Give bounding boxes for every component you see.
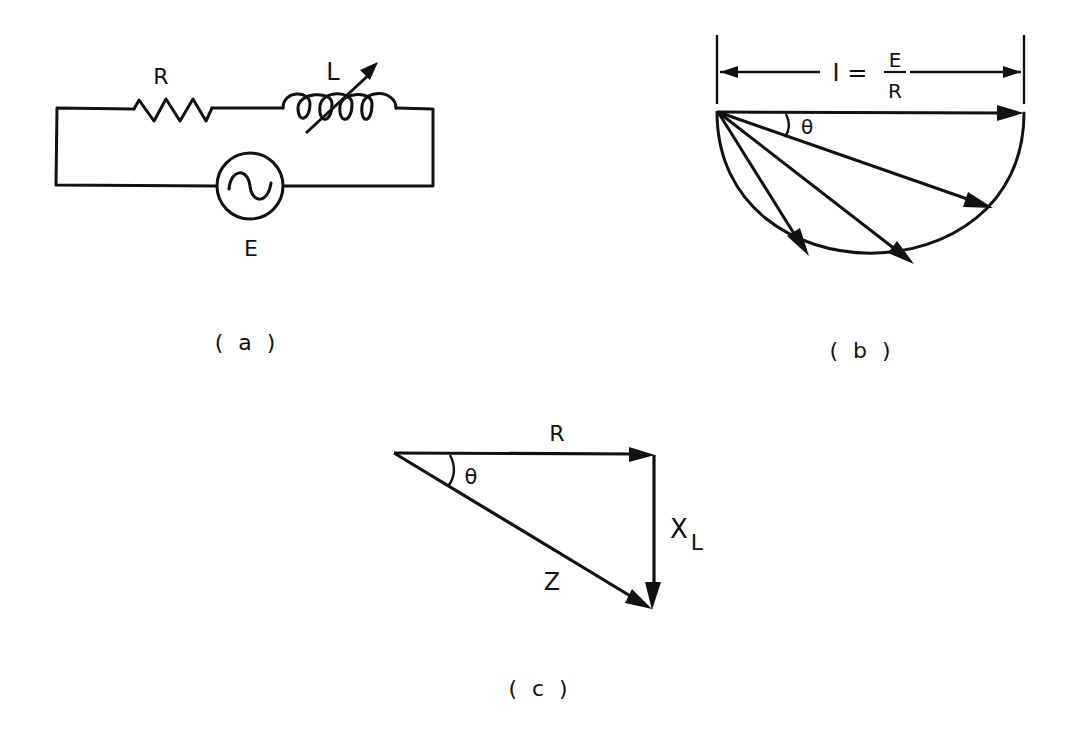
arrowhead-icon [1003, 66, 1021, 78]
reactance-subscript: L [691, 530, 704, 555]
caption-b: ( b ) [829, 338, 894, 363]
impedance-vector [394, 453, 632, 597]
angle-arc [785, 114, 789, 137]
phasor-arrow [718, 112, 1006, 113]
sine-wave-icon [229, 173, 271, 199]
figure-a-circuit: R L E ( a ) [56, 58, 433, 355]
angle-label: θ [801, 115, 813, 139]
arrowhead-icon [629, 447, 655, 462]
circuit-wire [56, 108, 216, 186]
circuit-wire [284, 108, 433, 186]
source-label: E [244, 236, 258, 261]
arrowhead-icon [888, 241, 914, 264]
impedance-label: Z [544, 568, 560, 596]
resistor-label: R [153, 64, 168, 89]
resistor-icon [134, 99, 212, 121]
caption-a: ( a ) [215, 330, 280, 355]
resistance-label: R [549, 421, 564, 446]
reactance-label: X [670, 514, 688, 544]
phasor-arrow [718, 112, 976, 202]
dimension-label: I = [833, 59, 868, 87]
figure-c-impedance-triangle: R θ X L Z ( c ) [394, 421, 704, 701]
resistance-vector [394, 453, 636, 454]
diagram-canvas: R L E ( a ) I = E R θ ( b ) [0, 0, 1078, 738]
fraction-denominator: R [888, 79, 902, 103]
angle-arc [448, 455, 454, 486]
arrowhead-icon [963, 192, 993, 208]
caption-c: ( c ) [508, 676, 571, 701]
figure-b-phasor-locus: I = E R θ ( b ) [717, 35, 1024, 363]
arrowhead-icon [720, 66, 738, 78]
angle-label: θ [465, 465, 478, 489]
arrowhead-icon [997, 105, 1024, 121]
arrowhead-icon [360, 62, 378, 80]
inductor-icon [283, 93, 396, 119]
fraction-numerator: E [889, 48, 902, 72]
inductor-label: L [326, 58, 340, 86]
